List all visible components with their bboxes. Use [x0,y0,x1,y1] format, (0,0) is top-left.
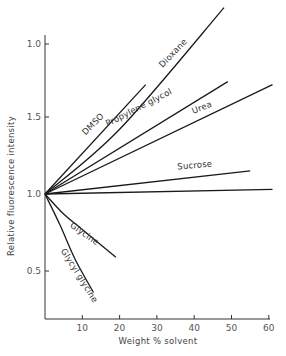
x-tick-label: 60 [263,323,275,333]
x-axis-title: Weight % solvent [119,336,198,346]
series-line-dmso [45,85,146,194]
y-axis-title: Relative fluorescence intensity [6,116,16,256]
x-ticks: 102030405060 [77,315,275,333]
y-tick-label: 1.5 [27,112,41,122]
series-label-glycine: Glycine [68,220,101,247]
y-tick-label: 0.5 [27,266,41,276]
x-tick-label: 40 [188,323,200,333]
x-tick-label: 10 [77,323,89,333]
y-tick-label: 1.0 [27,189,42,199]
series-label-dioxane: Dioxane [157,36,189,69]
series-label-glycyl-glycine: Glycyl glycine [59,246,100,304]
series-labels: DMSODioxanePropylene glycolUreaSucroseGl… [59,36,214,304]
series-label-sucrose: Sucrose [177,159,213,172]
fluorescence-chart: 102030405060 0.51.01.51.0 DMSODioxanePro… [0,0,286,356]
series-lines [45,8,273,293]
y-ticks: 0.51.01.51.0 [27,39,49,276]
y-tick-label: 1.0 [27,39,42,49]
x-tick-label: 30 [151,323,163,333]
x-tick-label: 20 [114,323,126,333]
series-label-urea: Urea [190,99,213,116]
x-tick-label: 50 [226,323,238,333]
